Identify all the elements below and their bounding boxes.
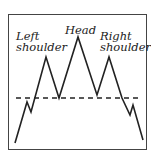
right-shoulder-label: Right shoulder [100, 31, 151, 53]
left-shoulder-label: Left shoulder [16, 31, 67, 53]
left-shoulder-label-line2: shoulder [16, 42, 67, 53]
head-label-text: Head [65, 25, 96, 36]
right-shoulder-label-line2: shoulder [100, 42, 151, 53]
head-label: Head [65, 25, 96, 36]
